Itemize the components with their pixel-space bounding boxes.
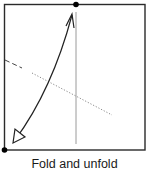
step-caption: Fold and unfold [0,155,149,175]
paper-square [5,5,146,151]
origami-diagram [0,0,149,155]
bottom-left-corner-point [2,147,8,153]
top-center-point [73,2,79,8]
